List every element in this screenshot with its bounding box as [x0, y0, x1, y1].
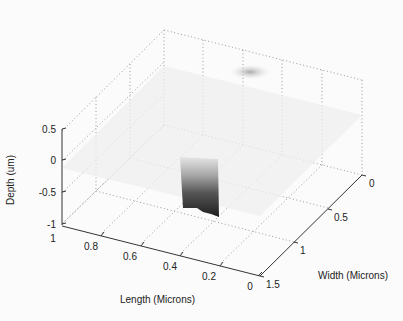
z-tick-labels: 0.5 0 -0.5 -1	[39, 124, 57, 230]
x-tick: 0.4	[163, 261, 177, 272]
z-axis-label: Depth (um)	[5, 155, 16, 205]
y-tick: 0	[369, 178, 375, 189]
surface-plot-figure: 0.5 0 -0.5 -1 1 0.8 0.6 0.4 0.2 0 0 0.5 …	[0, 0, 403, 321]
shallow-dip	[228, 64, 272, 80]
x-tick: 0.2	[202, 271, 216, 282]
deep-well	[180, 157, 219, 217]
z-tick: -0.5	[39, 187, 57, 198]
x-axis-label: Length (Microns)	[120, 294, 195, 305]
x-tick: 0.8	[84, 241, 98, 252]
y-tick: 1	[300, 245, 306, 256]
y-tick: 0.5	[334, 212, 348, 223]
x-tick: 0	[247, 281, 253, 292]
z-tick: 0.5	[42, 124, 56, 135]
z-tick: 0	[50, 155, 56, 166]
x-tick: 1	[50, 233, 56, 244]
y-tick: 1.5	[266, 279, 280, 290]
y-axis-label: Width (Microns)	[318, 270, 388, 281]
z-tick: -1	[47, 219, 56, 230]
x-tick: 0.6	[123, 251, 137, 262]
